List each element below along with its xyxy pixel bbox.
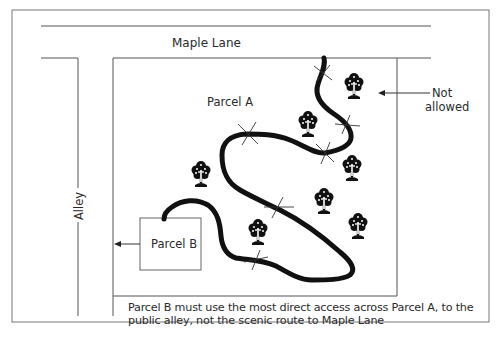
not-allowed-label-line1: Not — [432, 86, 453, 100]
property-diagram: Maple Lane Parcel A Parcel B Not allowed… — [0, 0, 498, 343]
tree-icon — [343, 155, 362, 181]
arrow-left-icon — [114, 241, 140, 247]
not-allowed-arrow-icon — [378, 90, 430, 96]
outer-frame — [12, 10, 489, 322]
parcel-a-label: Parcel A — [207, 95, 253, 109]
alley-edge-left — [41, 58, 78, 316]
caption-text: Parcel B must use the most direct access… — [128, 301, 488, 327]
tree-icon — [192, 161, 211, 187]
parcel-b-label: Parcel B — [151, 237, 197, 251]
not-allowed-label-line2: allowed — [425, 100, 469, 114]
tree-icon — [345, 73, 364, 99]
tree-icon — [249, 219, 268, 245]
tree-icon — [315, 188, 334, 214]
tree-icon — [299, 111, 318, 137]
alley-label: Alley — [72, 192, 86, 220]
maple-lane-label: Maple Lane — [172, 36, 241, 50]
tree-icon — [349, 213, 368, 239]
crossing-marks — [238, 65, 360, 270]
